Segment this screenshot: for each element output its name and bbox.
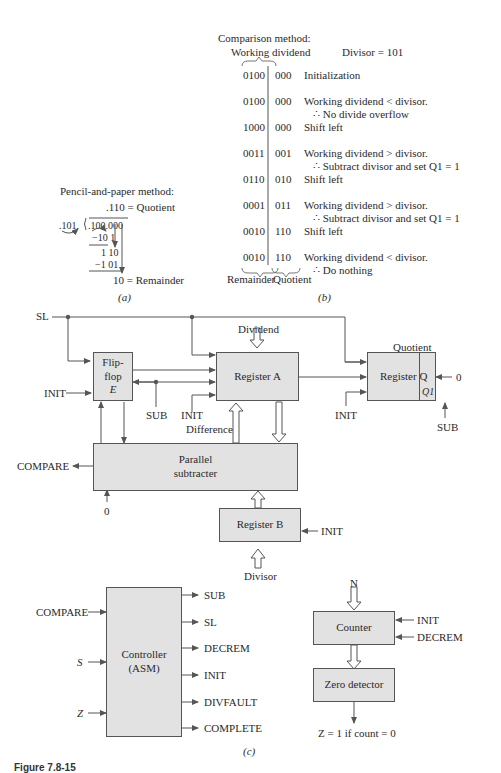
init-label-ff: INIT: [44, 388, 66, 399]
compare-input-label: COMPARE: [36, 607, 88, 618]
controller-output-complete: COMPLETE: [204, 723, 262, 734]
subtracter-label-2: subtracter: [174, 467, 217, 481]
zero-label-q: 0: [456, 372, 462, 383]
compare-label: COMPARE: [17, 461, 69, 472]
init-label-q: INIT: [335, 410, 357, 421]
difference-label: Difference: [186, 424, 233, 435]
n-label: N: [350, 578, 358, 589]
flipflop-label-3: E: [102, 383, 123, 397]
register-b: Register B: [219, 508, 301, 542]
sub-label: SUB: [146, 410, 167, 421]
init-label-a: INIT: [181, 410, 203, 421]
controller-output-sub: SUB: [204, 590, 225, 601]
sl-label: SL: [36, 311, 49, 322]
zero-detector: Zero detector: [313, 668, 395, 702]
controller-output-divfault: DIVFAULT: [204, 697, 257, 708]
divisor-label: Divisor: [244, 571, 277, 582]
register-q: Register Q Q1: [367, 352, 436, 401]
flipflop-label-2: flop: [102, 370, 123, 384]
dividend-label: Dividend: [238, 324, 279, 335]
controller-output-sl: SL: [204, 617, 217, 628]
register-a: Register A: [216, 352, 299, 401]
register-a-label: Register A: [234, 370, 281, 384]
controller-asm: Controller (ASM): [106, 587, 182, 737]
controller-output-decrem: DECREM: [204, 643, 250, 654]
counter: Counter: [313, 611, 395, 645]
z-note: Z = 1 if count = 0: [318, 728, 396, 739]
flip-flop-e: Flip- flop E: [93, 352, 133, 401]
init-label-b: INIT: [321, 526, 343, 537]
q1-bit: Q1: [419, 353, 435, 400]
sub-label-q: SUB: [437, 422, 458, 433]
z-input-label: Z: [77, 708, 83, 719]
zero-detector-label: Zero detector: [325, 678, 384, 692]
controller-label-2: (ASM): [121, 662, 166, 676]
init-label-counter: INIT: [417, 615, 439, 626]
subtracter-label-1: Parallel: [174, 453, 217, 467]
register-b-label: Register B: [237, 518, 284, 532]
parallel-subtracter: Parallel subtracter: [93, 443, 298, 491]
controller-label-1: Controller: [121, 648, 166, 662]
part-c-label: (c): [243, 746, 255, 757]
s-input-label: S: [77, 657, 83, 668]
q1-label: Q1: [422, 386, 434, 399]
counter-label: Counter: [336, 621, 371, 635]
figure-caption: Figure 7.8-15: [14, 762, 76, 773]
decrem-label-counter: DECREM: [417, 632, 463, 643]
flipflop-label-1: Flip-: [102, 356, 123, 370]
zero-label-sub: 0: [104, 506, 110, 517]
controller-output-init: INIT: [204, 670, 226, 681]
